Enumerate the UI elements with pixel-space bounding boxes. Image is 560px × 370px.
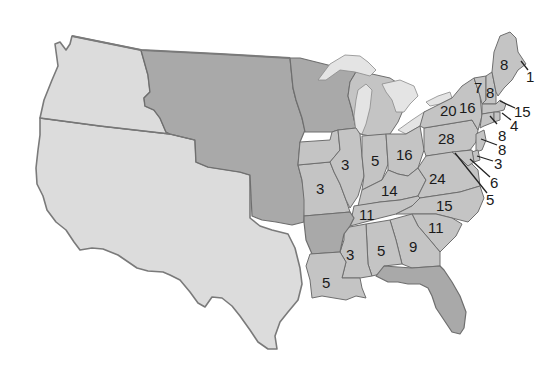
us-electoral-map: 8 7 8 16 20 28 16 5 3 3 14 24 11 15 11 9… — [0, 0, 560, 370]
label-pennsylvania: 28 — [438, 130, 455, 147]
state-maine — [492, 32, 526, 96]
label-virginia: 24 — [429, 170, 446, 187]
label-indiana: 5 — [371, 152, 379, 169]
label-alabama: 5 — [377, 242, 385, 259]
label-missouri: 3 — [316, 180, 324, 197]
label-new-york: 16 — [459, 99, 476, 116]
state-connecticut — [480, 112, 494, 128]
state-rhode-island — [494, 112, 500, 122]
label-north-carolina: 15 — [436, 197, 453, 214]
label-mississippi: 3 — [346, 246, 354, 263]
label-callout-delaware: 3 — [494, 155, 502, 172]
label-new-hampshire: 8 — [486, 84, 494, 101]
label-maine: 8 — [500, 56, 508, 73]
label-callout-maryland-west: 5 — [486, 191, 494, 208]
label-tennessee: 11 — [359, 206, 375, 223]
label-vermont: 7 — [474, 79, 482, 96]
label-south-carolina: 11 — [428, 219, 444, 236]
label-new-york-west: 20 — [440, 102, 457, 119]
label-georgia: 9 — [409, 238, 417, 255]
territory-florida — [376, 266, 466, 334]
label-callout-maine: 1 — [526, 68, 534, 85]
label-illinois: 3 — [341, 156, 349, 173]
label-kentucky: 14 — [381, 182, 398, 199]
label-louisiana: 5 — [322, 274, 330, 291]
label-callout-maryland: 6 — [490, 174, 498, 191]
map-svg: 8 7 8 16 20 28 16 5 3 3 14 24 11 15 11 9… — [0, 0, 560, 370]
label-callout-rhode-island: 4 — [510, 117, 518, 134]
label-ohio: 16 — [396, 146, 413, 163]
